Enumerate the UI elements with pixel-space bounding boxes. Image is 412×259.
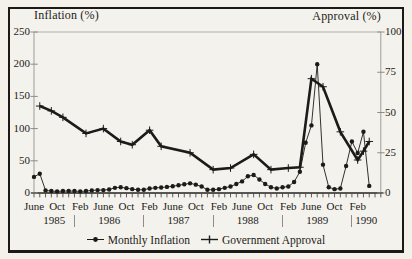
left-axis-tick-label: 250 (0, 25, 30, 38)
dot-marker-icon (87, 235, 104, 244)
right-axis-tick-label: 75 (385, 65, 412, 78)
chart-legend: Monthly Inflation Government Approval (0, 232, 412, 247)
year-separator (74, 215, 75, 227)
legend-label-inflation: Monthly Inflation (108, 234, 190, 246)
year-separator (143, 215, 144, 227)
x-year-label: 1985 (34, 214, 74, 227)
x-year-label: 1986 (89, 214, 129, 227)
legend-item-approval: Government Approval (201, 234, 325, 246)
right-axis-title: Approval (%) (312, 9, 381, 24)
left-axis-tick-label: 100 (0, 122, 30, 135)
right-axis-tick-label: 100 (385, 25, 412, 38)
x-year-label: 1988 (228, 214, 268, 227)
legend-item-inflation: Monthly Inflation (87, 234, 190, 246)
right-axis-tick-label: 50 (385, 106, 412, 119)
year-separator (282, 215, 283, 227)
x-year-label: 1987 (159, 214, 199, 227)
year-separator (213, 215, 214, 227)
legend-label-approval: Government Approval (222, 234, 325, 246)
right-axis-tick-label: 0 (385, 186, 412, 199)
left-axis-tick-label: 200 (0, 57, 30, 70)
x-month-label: Feb (341, 200, 375, 213)
left-axis-tick-label: 0 (0, 186, 30, 199)
x-year-label: 1989 (297, 214, 337, 227)
year-separator (351, 215, 352, 227)
left-axis-tick-label: 50 (0, 154, 30, 167)
left-axis-tick-label: 150 (0, 89, 30, 102)
left-axis-title: Inflation (%) (34, 8, 99, 23)
plus-marker-icon (201, 235, 218, 244)
figure-page: Inflation (%) Approval (%) 0501001502002… (0, 0, 412, 259)
right-axis-tick-label: 25 (385, 146, 412, 159)
